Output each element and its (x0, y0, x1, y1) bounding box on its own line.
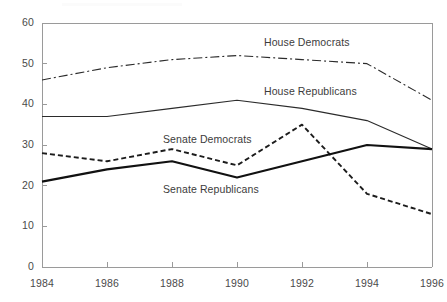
x-tick-label: 1988 (152, 277, 192, 289)
series-line-senate-republicans (42, 145, 432, 182)
x-tick-label: 1996 (412, 277, 447, 289)
x-tick-label: 1986 (87, 277, 127, 289)
series-label-senate-democrats: Senate Democrats (163, 133, 252, 145)
x-tick-label: 1990 (217, 277, 257, 289)
y-tick-label: 0 (12, 260, 34, 272)
y-tick-label: 40 (12, 97, 34, 109)
chart-container: 0102030405060 19841986198819901992199419… (0, 0, 447, 302)
x-tick-label: 1984 (22, 277, 62, 289)
y-tick-label: 10 (12, 219, 34, 231)
y-tick-label: 50 (12, 57, 34, 69)
series-label-senate-republicans: Senate Republicans (163, 183, 259, 195)
y-tick-label: 20 (12, 179, 34, 191)
line-chart-plot (0, 0, 447, 302)
y-tick-label: 60 (12, 16, 34, 28)
x-tick-label: 1992 (282, 277, 322, 289)
y-tick-label: 30 (12, 138, 34, 150)
x-tick-label: 1994 (347, 277, 387, 289)
series-line-house-democrats (42, 56, 432, 101)
series-label-house-republicans: House Republicans (264, 85, 357, 97)
series-label-house-democrats: House Democrats (264, 36, 350, 48)
